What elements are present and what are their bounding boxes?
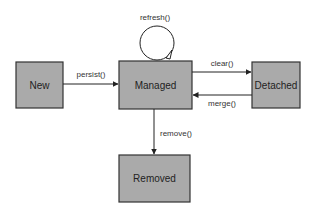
edge-clear-label: clear() [211,59,234,68]
edge-refresh: refresh() [140,13,174,60]
edge-persist-label: persist() [77,70,106,79]
node-managed: Managed [119,61,192,109]
edge-remove: remove() [154,109,192,154]
node-managed-label: Managed [135,80,177,91]
node-new: New [16,62,63,108]
node-new-label: New [29,80,50,91]
edge-merge: merge() [193,95,252,108]
edge-clear: clear() [192,59,251,72]
edge-remove-label: remove() [160,129,192,138]
edge-persist: persist() [63,70,118,84]
loop-arrowhead-icon [166,50,172,59]
edge-refresh-label: refresh() [140,13,171,22]
node-detached: Detached [252,62,300,108]
state-diagram: New Managed Detached Removed persist() r… [0,0,314,211]
node-detached-label: Detached [255,80,298,91]
node-removed-label: Removed [133,173,176,184]
edge-merge-label: merge() [208,99,236,108]
node-removed: Removed [119,155,190,202]
